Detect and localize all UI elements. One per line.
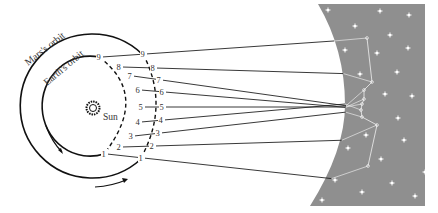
- diagram-canvas: 112233445566778899 Mars's orbit Earth's …: [0, 0, 438, 213]
- sight-line: [134, 112, 346, 136]
- mars-position-label: 5: [160, 102, 164, 112]
- earth-position-label: 5: [139, 102, 143, 112]
- sun-label: Sun: [103, 112, 118, 122]
- mars-position-label: 6: [160, 87, 164, 97]
- mars-position-label: 8: [151, 63, 155, 73]
- mars-position-label: 7: [157, 75, 161, 85]
- retrograde-motion-diagram: 112233445566778899 Mars's orbit Earth's …: [0, 0, 438, 213]
- mars-position-label: 3: [156, 128, 160, 138]
- mars-arrowhead-icon: [122, 178, 128, 183]
- sun-icon: [87, 102, 100, 115]
- mars-direction-arrow-icon: [95, 180, 126, 187]
- earth-orbit-segment: [99, 57, 126, 154]
- earth-position-label: 1: [102, 149, 106, 159]
- mars-position-label: 1: [139, 153, 143, 163]
- position-labels: 112233445566778899: [96, 49, 166, 163]
- mars-position-label: 2: [150, 141, 154, 151]
- celestial-sphere-sky: [310, 4, 425, 206]
- earth-position-label: 8: [117, 62, 121, 72]
- sight-line: [141, 90, 346, 107]
- earth-position-label: 6: [136, 85, 140, 95]
- earth-position-label: 7: [128, 71, 132, 81]
- earth-position-label: 3: [129, 131, 133, 141]
- earth-position-label: 9: [97, 52, 101, 62]
- mars-position-label: 9: [141, 49, 145, 59]
- earth-position-label: 2: [117, 142, 121, 152]
- earth-orbit-label: Earth's orbit: [41, 48, 86, 88]
